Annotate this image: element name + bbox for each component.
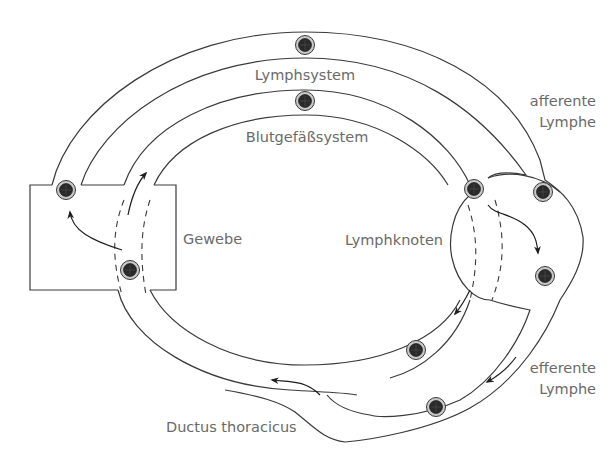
arrow-blood-up xyxy=(128,173,146,215)
cell-tissue-exit xyxy=(57,181,76,200)
arrow-tissue-to-lymph xyxy=(70,212,122,250)
cell-node-inner xyxy=(536,267,555,286)
label-efferent-2: Lymphe xyxy=(539,381,596,397)
capillary-dashes xyxy=(115,200,502,300)
cell-efferent xyxy=(427,398,446,417)
cell-node-entry xyxy=(465,180,484,199)
cell-lymph-top xyxy=(296,36,315,55)
label-tissue: Gewebe xyxy=(183,231,242,247)
label-afferent-1: afferente xyxy=(530,93,596,109)
cell-tissue-entry xyxy=(121,261,140,280)
arrow-node-down xyxy=(455,290,470,314)
cell-blood-top xyxy=(296,92,315,111)
lymph-vessel xyxy=(52,32,583,442)
label-blood-system: Blutgefäßsystem xyxy=(246,129,369,145)
label-lymph-system: Lymphsystem xyxy=(255,67,355,83)
label-lymph-node: Lymphknoten xyxy=(345,232,443,248)
arrow-efferent xyxy=(487,357,516,382)
lymph-circulation-diagram: Lymphsystem Blutgefäßsystem Gewebe Lymph… xyxy=(0,0,613,464)
arrow-node-inner xyxy=(488,205,538,253)
cell-blood-bottom xyxy=(407,341,426,360)
label-thoracic-duct: Ductus thoracicus xyxy=(166,419,297,435)
label-efferent-1: efferente xyxy=(530,360,596,376)
label-afferent-2: Lymphe xyxy=(539,114,596,130)
cell-afferent xyxy=(534,183,553,202)
arrow-duct xyxy=(272,380,320,395)
tissue-box xyxy=(30,185,176,290)
flow-arrows xyxy=(70,173,538,395)
